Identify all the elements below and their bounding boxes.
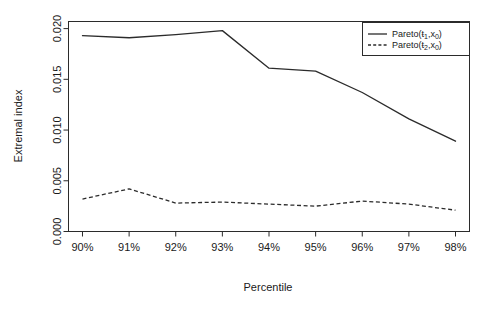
chart-legend: Pareto(ŧ1,x0) Pareto(ŧ2,x0) (363, 23, 470, 56)
data-series-group (82, 31, 455, 211)
x-tick-label-3: 93% (211, 241, 233, 253)
y-tick-label-4: 0.020 (51, 15, 63, 43)
y-tick-label-3: 0.015 (51, 66, 63, 94)
x-tick-label-6: 96% (351, 241, 373, 253)
chart-container: 0.0000.0050.0100.0150.020 90%91%92%93%94… (0, 0, 483, 312)
y-tick-label-1: 0.005 (51, 167, 63, 195)
x-tick-label-0: 90% (71, 241, 93, 253)
x-tick-label-7: 97% (398, 241, 420, 253)
x-tick-label-1: 91% (118, 241, 140, 253)
legend-label-series-2: Pareto(ŧ2,x0) (392, 40, 442, 51)
x-tick-label-8: 98% (444, 241, 466, 253)
legend-label-series-1: Pareto(ŧ1,x0) (392, 29, 442, 40)
x-axis: 90%91%92%93%94%95%96%97%98% (71, 232, 466, 253)
y-axis-title: Extremal index (12, 89, 24, 162)
series-line-2 (82, 189, 455, 210)
x-tick-label-5: 95% (305, 241, 327, 253)
y-axis: 0.0000.0050.0100.0150.020 (51, 15, 68, 245)
y-tick-label-2: 0.010 (51, 116, 63, 144)
y-tick-label-0: 0.000 (51, 218, 63, 246)
extremal-index-line-chart: 0.0000.0050.0100.0150.020 90%91%92%93%94… (0, 0, 483, 312)
x-tick-label-2: 92% (165, 241, 187, 253)
x-tick-label-4: 94% (258, 241, 280, 253)
legend-box (363, 23, 470, 56)
x-axis-title: Percentile (244, 281, 293, 293)
